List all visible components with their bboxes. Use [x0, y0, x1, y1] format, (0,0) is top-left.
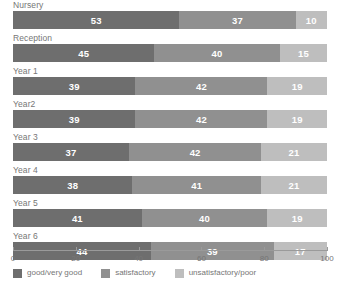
- row-category-label: Nursery: [13, 0, 43, 11]
- bar-segment[interactable]: 10: [296, 11, 327, 29]
- chart-row: Year 5414019: [0, 198, 337, 231]
- bar-segment-value: 21: [289, 147, 300, 158]
- legend-swatch-icon: [13, 269, 22, 278]
- chart-legend: good/very goodsatisfactoryunsatisfactory…: [13, 268, 275, 278]
- bar-segment[interactable]: 15: [280, 44, 327, 62]
- x-axis-tick: [13, 247, 14, 251]
- bar-segment-value: 45: [78, 48, 89, 59]
- bar-segment[interactable]: 44: [13, 242, 151, 260]
- x-axis-tick-label: 40: [134, 254, 143, 264]
- chart-row: Year 4384121: [0, 165, 337, 198]
- bar-segment[interactable]: 39: [13, 110, 135, 128]
- chart-row: Year2394219: [0, 99, 337, 132]
- row-category-label: Year 1: [13, 66, 38, 77]
- chart-row: Reception454015: [0, 33, 337, 66]
- bar-segment-value: 15: [298, 48, 309, 59]
- row-category-label: Year 5: [13, 198, 38, 209]
- chart-row: Nursery533710: [0, 0, 337, 33]
- stacked-bar: 443917: [13, 242, 327, 260]
- legend-swatch-icon: [175, 269, 184, 278]
- bar-segment-value: 53: [91, 15, 102, 26]
- x-axis-tick: [201, 247, 202, 251]
- bar-segment-value: 40: [199, 213, 210, 224]
- stacked-bar: 533710: [13, 11, 327, 29]
- x-axis-tick-label: 100: [320, 254, 333, 264]
- legend-swatch-icon: [101, 269, 110, 278]
- bar-segment-value: 19: [292, 114, 303, 125]
- bar-segment-value: 42: [196, 114, 207, 125]
- row-category-label: Year2: [13, 99, 35, 110]
- bar-segment[interactable]: 42: [135, 110, 267, 128]
- bar-segment[interactable]: 21: [261, 176, 327, 194]
- bar-segment[interactable]: 41: [13, 209, 142, 227]
- bar-segment-value: 19: [292, 213, 303, 224]
- bar-segment[interactable]: 21: [261, 143, 327, 161]
- bar-segment[interactable]: 19: [267, 110, 327, 128]
- bar-segment[interactable]: 42: [129, 143, 261, 161]
- chart-row: Year 3374221: [0, 132, 337, 165]
- row-category-label: Year 3: [13, 132, 38, 143]
- bar-segment[interactable]: 37: [13, 143, 129, 161]
- bar-segment-value: 41: [191, 180, 202, 191]
- x-axis-tick: [327, 247, 328, 251]
- legend-item[interactable]: unsatisfactory/poor: [175, 268, 257, 278]
- x-axis-tick: [76, 247, 77, 251]
- row-category-label: Year 6: [13, 231, 38, 242]
- stacked-bar-chart: Nursery533710Reception454015Year 1394219…: [0, 0, 337, 298]
- bar-segment[interactable]: 19: [267, 209, 327, 227]
- bar-segment[interactable]: 38: [13, 176, 132, 194]
- bar-segment[interactable]: 19: [267, 77, 327, 95]
- bar-segment[interactable]: 53: [13, 11, 179, 29]
- stacked-bar: 394219: [13, 77, 327, 95]
- bar-segment-value: 37: [66, 147, 77, 158]
- x-axis-tick-label: 20: [71, 254, 80, 264]
- bar-segment[interactable]: 39: [13, 77, 135, 95]
- bar-segment-value: 17: [295, 246, 306, 257]
- chart-row: Year 6443917: [0, 231, 337, 264]
- bar-segment[interactable]: 40: [154, 44, 280, 62]
- stacked-bar: 454015: [13, 44, 327, 62]
- bar-segment-value: 38: [67, 180, 78, 191]
- bar-segment[interactable]: 41: [132, 176, 261, 194]
- bar-segment[interactable]: 45: [13, 44, 154, 62]
- legend-item-label: good/very good: [27, 268, 82, 278]
- bar-segment[interactable]: 39: [151, 242, 273, 260]
- bar-segment-value: 19: [292, 81, 303, 92]
- legend-item-label: unsatisfactory/poor: [189, 268, 257, 278]
- chart-row: Year 1394219: [0, 66, 337, 99]
- bar-segment[interactable]: 17: [274, 242, 327, 260]
- bar-segment-value: 39: [69, 81, 80, 92]
- bar-segment-value: 40: [212, 48, 223, 59]
- stacked-bar: 394219: [13, 110, 327, 128]
- stacked-bar: 374221: [13, 143, 327, 161]
- x-axis-tick-label: 0: [11, 254, 15, 264]
- legend-item[interactable]: good/very good: [13, 268, 82, 278]
- stacked-bar: 414019: [13, 209, 327, 227]
- bar-segment-value: 39: [207, 246, 218, 257]
- stacked-bar: 384121: [13, 176, 327, 194]
- row-category-label: Year 4: [13, 165, 38, 176]
- chart-plot-area: Nursery533710Reception454015Year 1394219…: [0, 0, 337, 264]
- legend-item[interactable]: satisfactory: [101, 268, 155, 278]
- bar-segment[interactable]: 40: [142, 209, 268, 227]
- bar-segment-value: 41: [72, 213, 83, 224]
- x-axis: 020406080100: [13, 250, 327, 251]
- bar-segment[interactable]: 37: [179, 11, 295, 29]
- row-category-label: Reception: [13, 33, 52, 44]
- bar-segment[interactable]: 42: [135, 77, 267, 95]
- legend-item-label: satisfactory: [115, 268, 155, 278]
- bar-segment-value: 42: [196, 81, 207, 92]
- x-axis-tick-label: 60: [197, 254, 206, 264]
- bar-segment-value: 21: [289, 180, 300, 191]
- x-axis-tick: [264, 247, 265, 251]
- bar-segment-value: 39: [69, 114, 80, 125]
- bar-segment-value: 10: [306, 15, 317, 26]
- bar-segment-value: 42: [190, 147, 201, 158]
- x-axis-tick: [139, 247, 140, 251]
- bar-segment-value: 37: [232, 15, 243, 26]
- x-axis-tick-label: 80: [260, 254, 269, 264]
